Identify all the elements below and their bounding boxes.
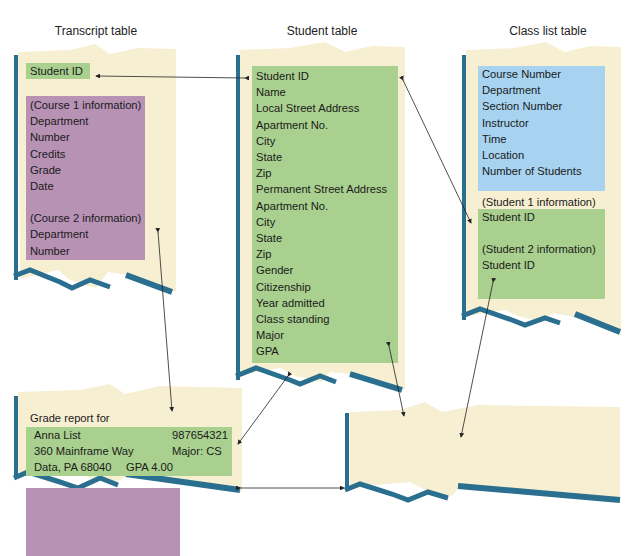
- paper-sheet-icon: [0, 0, 633, 506]
